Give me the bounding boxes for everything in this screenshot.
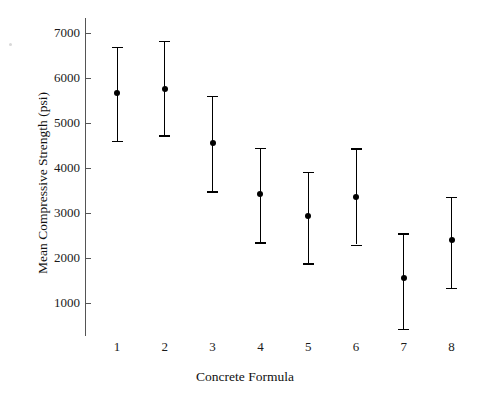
error-bar-upper-cap — [446, 197, 457, 198]
y-axis-tick-label: 7000 — [30, 26, 80, 40]
data-point-marker — [449, 237, 455, 243]
chart-figure: 7000600050004000300020001000 12345678 Me… — [0, 0, 490, 399]
plot-area: 7000600050004000300020001000 12345678 Me… — [0, 0, 490, 399]
data-point-marker — [114, 90, 120, 96]
y-axis-tick — [85, 168, 91, 169]
y-axis-tick — [85, 213, 91, 214]
x-axis-tick-label: 1 — [97, 339, 137, 355]
error-bar-lower-cap — [112, 141, 123, 142]
error-bar-upper-cap — [351, 148, 362, 149]
x-axis-tick-label: 3 — [193, 339, 233, 355]
error-bar-upper-cap — [207, 96, 218, 97]
error-bar-lower-cap — [159, 135, 170, 136]
y-axis-tick — [85, 78, 91, 79]
y-axis-tick — [85, 123, 91, 124]
data-point-marker — [401, 275, 407, 281]
x-axis-tick-label: 8 — [432, 339, 472, 355]
error-bar-lower-cap — [398, 329, 409, 330]
y-axis-title: Mean Compressive Strength (psi) — [35, 63, 51, 303]
data-point-marker — [353, 194, 359, 200]
data-point-marker — [257, 191, 263, 197]
y-axis-tick-label-text: 7000 — [36, 26, 80, 39]
error-bar-lower-cap — [446, 288, 457, 289]
data-point-marker — [162, 86, 168, 92]
error-bar-lower-cap — [207, 191, 218, 192]
x-axis-title: Concrete Formula — [0, 369, 490, 385]
y-axis-line — [85, 18, 86, 336]
x-axis-tick-label: 5 — [288, 339, 328, 355]
error-bar-lower-cap — [351, 245, 362, 246]
error-bar-upper-cap — [255, 148, 266, 149]
x-axis-tick-label: 2 — [145, 339, 185, 355]
x-axis-tick-label: 7 — [384, 339, 424, 355]
y-axis-tick — [85, 33, 91, 34]
x-axis-tick-label: 6 — [336, 339, 376, 355]
error-bar-lower-cap — [255, 242, 266, 243]
error-bar-upper-cap — [303, 172, 314, 173]
y-axis-tick — [85, 303, 91, 304]
y-axis-tick — [85, 258, 91, 259]
error-bar-upper-cap — [112, 47, 123, 48]
x-axis-tick-label: 4 — [240, 339, 280, 355]
error-bar-upper-cap — [159, 41, 170, 42]
error-bar-line — [403, 233, 404, 328]
error-bar-lower-cap — [303, 263, 314, 264]
data-point-marker — [305, 213, 311, 219]
data-point-marker — [210, 140, 216, 146]
error-bar-upper-cap — [398, 233, 409, 234]
